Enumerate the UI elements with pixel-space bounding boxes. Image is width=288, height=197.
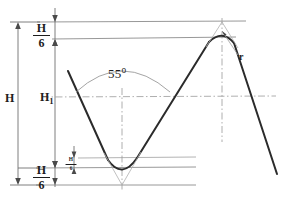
label-overall-height: H (5, 92, 14, 104)
label-thread-height-subscript: 1 (49, 96, 53, 106)
root-detail-numerator: H (66, 156, 77, 163)
label-thread-height: H1 (40, 91, 54, 106)
crest-truncation-arrow-up (52, 39, 58, 46)
dimension-H-arrow-top (15, 22, 21, 29)
crest-truncation-arrow-down (52, 15, 58, 22)
root-detail-denominator: 6 (66, 165, 77, 172)
label-crest-truncation-fraction: H 6 (33, 22, 50, 49)
crest-fraction-numerator: H (33, 22, 50, 35)
degree-symbol-icon: o (122, 65, 127, 75)
crest-construction-left (206, 22, 222, 47)
apex-reference-line (37, 21, 246, 22)
right-flank-ascending (137, 42, 209, 158)
dimension-H-arrow-bottom (15, 178, 21, 185)
thread-profile-drawing: H H1 55o r H 6 H 6 H 6 (0, 0, 288, 197)
label-root-truncation-fraction: H 6 (33, 164, 50, 191)
right-flank-descending (234, 43, 277, 174)
label-root-detail-fraction: H 6 (66, 156, 77, 173)
root-fraction-denominator: 6 (33, 179, 50, 192)
label-thread-height-text: H (40, 90, 49, 104)
label-angle-value: 55 (108, 66, 122, 81)
crest-truncation-line (52, 37, 236, 39)
label-thread-angle: 55o (108, 66, 127, 80)
label-crest-radius: r (239, 52, 243, 62)
root-truncation-arrow-up (52, 161, 58, 168)
crest-fraction-denominator: 6 (33, 37, 50, 50)
root-fraction-numerator: H (33, 164, 50, 177)
root-truncation-arrow-down (52, 178, 58, 185)
pitch-centerline (42, 96, 276, 97)
